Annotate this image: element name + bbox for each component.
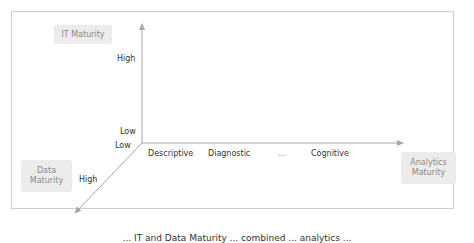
it-maturity-low-label: Low — [120, 127, 136, 136]
it-maturity-title-text: IT Maturity — [61, 30, 104, 40]
it-maturity-title: IT Maturity — [54, 25, 112, 44]
data-maturity-high-label: High — [79, 175, 97, 184]
data-maturity-low-label: Low — [115, 141, 131, 150]
analytics-level-ellipsis: ... — [278, 149, 286, 158]
analytics-level-cognitive: Cognitive — [311, 149, 349, 158]
analytics-maturity-title: Analytics Maturity — [401, 152, 456, 184]
analytics-maturity-title-text: Analytics Maturity — [406, 158, 452, 178]
it-maturity-high-label: High — [117, 54, 135, 63]
data-maturity-title-text: Data Maturity — [29, 166, 65, 186]
figure-caption-clipped: ... IT and Data Maturity ... combined ..… — [0, 233, 474, 243]
analytics-level-descriptive: Descriptive — [148, 149, 193, 158]
data-maturity-title: Data Maturity — [21, 160, 72, 192]
analytics-level-diagnostic: Diagnostic — [208, 149, 250, 158]
